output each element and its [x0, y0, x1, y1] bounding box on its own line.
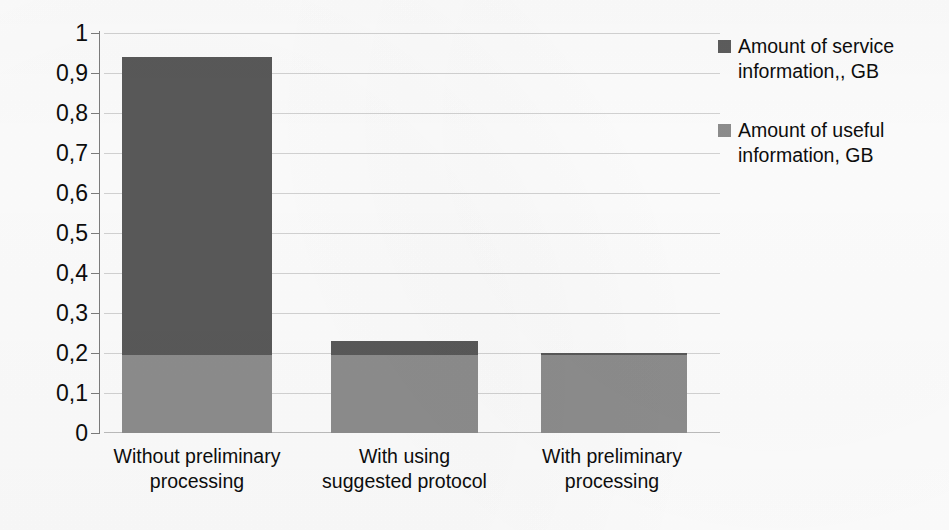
y-tick-label: 0,1 [2, 382, 88, 405]
y-tick-mark [91, 33, 100, 34]
y-tick-label: 0 [2, 422, 88, 445]
legend-item-service[interactable]: Amount of service information,, GB [718, 34, 949, 84]
y-tick-mark [91, 353, 100, 354]
bar-segment-useful[interactable] [331, 355, 478, 433]
y-tick-mark [91, 393, 100, 394]
bar-segment-service[interactable] [122, 57, 272, 355]
chart-figure: 1 0,9 0,8 0,7 0,6 0,5 0,4 0,3 0,2 0,1 0 [0, 0, 949, 530]
y-tick-label: 0,8 [2, 102, 88, 125]
x-tick-label-line2: processing [526, 469, 698, 494]
y-axis-label-group: 1 0,9 0,8 0,7 0,6 0,5 0,4 0,3 0,2 0,1 0 [0, 0, 88, 530]
x-tick-label-with-preliminary-processing: With preliminary processing [526, 444, 698, 494]
y-tick-label: 1 [2, 22, 88, 45]
legend-label: Amount of useful information, GB [738, 118, 943, 168]
y-tick-mark [91, 113, 100, 114]
bar-segment-useful[interactable] [122, 355, 272, 433]
y-tick-mark [91, 153, 100, 154]
y-tick-label: 0,3 [2, 302, 88, 325]
y-tick-label: 0,6 [2, 182, 88, 205]
bar-segment-service[interactable] [541, 353, 687, 355]
y-tick-mark [91, 273, 100, 274]
y-tick-label: 0,7 [2, 142, 88, 165]
bar-column-without-preliminary-processing[interactable] [122, 57, 272, 433]
legend-label: Amount of service information,, GB [738, 34, 943, 84]
bar-segment-service[interactable] [331, 341, 478, 355]
bar-column-with-using-suggested-protocol[interactable] [331, 341, 478, 433]
legend-swatch-icon [718, 124, 731, 137]
y-tick-mark [91, 433, 100, 434]
y-tick-label: 0,5 [2, 222, 88, 245]
plot-area [104, 33, 720, 433]
x-tick-label-without-preliminary-processing: Without preliminary processing [106, 444, 288, 494]
bar-column-with-preliminary-processing[interactable] [541, 353, 687, 433]
x-tick-label-line1: Without preliminary [106, 444, 288, 469]
y-tick-label: 0,2 [2, 342, 88, 365]
x-tick-label-line1: With preliminary [526, 444, 698, 469]
x-tick-label-line1: With using [316, 444, 493, 469]
x-tick-label-with-using-suggested-protocol: With using suggested protocol [316, 444, 493, 494]
y-tick-mark [91, 73, 100, 74]
x-axis-label-group: Without preliminary processing With usin… [104, 444, 720, 514]
y-tick-mark [91, 193, 100, 194]
chart-legend: Amount of service information,, GB Amoun… [718, 34, 949, 202]
y-tick-mark [91, 313, 100, 314]
x-tick-label-line2: processing [106, 469, 288, 494]
gridline [104, 33, 720, 34]
legend-item-useful[interactable]: Amount of useful information, GB [718, 118, 949, 168]
y-tick-label: 0,4 [2, 262, 88, 285]
y-tick-mark [91, 233, 100, 234]
bar-segment-useful[interactable] [541, 355, 687, 433]
y-tick-label: 0,9 [2, 62, 88, 85]
legend-swatch-icon [718, 40, 731, 53]
x-tick-label-line2: suggested protocol [316, 469, 493, 494]
